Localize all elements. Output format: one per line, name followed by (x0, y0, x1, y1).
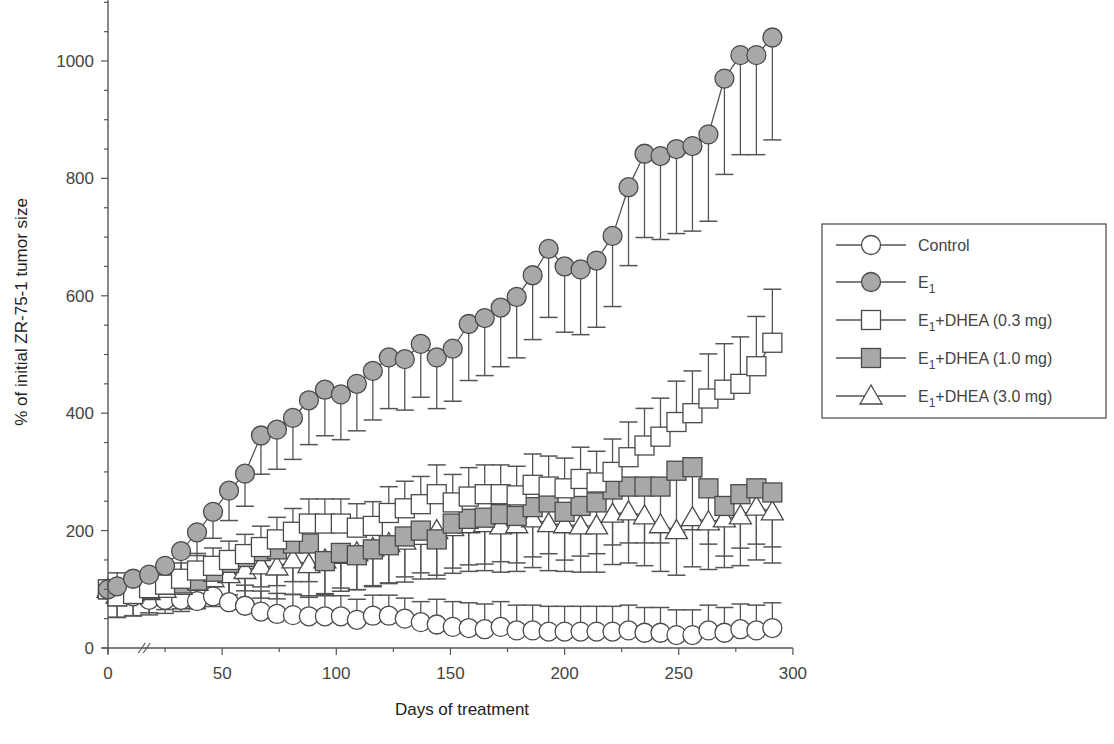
filled-square-marker (763, 483, 782, 502)
series-1-markers (99, 28, 782, 599)
filled-circle-marker (763, 28, 782, 47)
open-circle-marker (862, 236, 881, 255)
x-tick-label: 150 (436, 664, 464, 683)
filled-circle-marker (715, 69, 734, 88)
filled-circle-marker (539, 239, 558, 258)
filled-circle-marker (523, 266, 542, 285)
y-tick-label: 800 (66, 169, 94, 188)
open-triangle-marker (618, 501, 640, 520)
open-square-marker (862, 311, 881, 330)
filled-circle-marker (172, 542, 191, 561)
filled-square-marker (862, 349, 881, 368)
filled-circle-marker (347, 374, 366, 393)
filled-circle-marker (411, 334, 430, 353)
y-tick-label: 0 (85, 639, 94, 658)
x-tick-label: 300 (779, 664, 807, 683)
x-axis-title: Days of treatment (395, 700, 529, 719)
filled-circle-marker (267, 420, 286, 439)
filled-square-marker (683, 458, 702, 477)
open-square-marker (763, 333, 782, 352)
x-tick-label: 0 (103, 664, 112, 683)
y-tick-label: 1000 (56, 52, 94, 71)
filled-circle-marker (683, 137, 702, 156)
filled-circle-marker (204, 502, 223, 521)
open-square-marker (747, 357, 766, 376)
filled-circle-marker (603, 226, 622, 245)
y-tick-label: 400 (66, 404, 94, 423)
filled-square-marker (699, 479, 718, 498)
filled-circle-marker (156, 556, 175, 575)
legend-label: Control (918, 237, 970, 254)
filled-circle-marker (219, 481, 238, 500)
x-tick-label: 250 (665, 664, 693, 683)
series-markers (97, 28, 783, 645)
filled-circle-marker (235, 464, 254, 483)
open-triangle-marker (681, 507, 703, 526)
open-circle-marker (763, 619, 782, 638)
legend: ControlE1E1+DHEA (0.3 mg)E1+DHEA (1.0 mg… (822, 224, 1106, 418)
y-tick-label: 600 (66, 287, 94, 306)
x-tick-label: 50 (213, 664, 232, 683)
filled-circle-marker (747, 46, 766, 65)
filled-circle-marker (699, 125, 718, 144)
filled-circle-marker (188, 523, 207, 542)
filled-circle-marker (283, 408, 302, 427)
y-tick-label: 200 (66, 522, 94, 541)
x-tick-label: 100 (322, 664, 350, 683)
chart-svg: 02004006008001000050100150200250300Days … (0, 0, 1114, 744)
y-axis-title: % of initial ZR-75-1 tumor size (12, 198, 31, 426)
filled-circle-marker (443, 339, 462, 358)
filled-circle-marker (619, 178, 638, 197)
x-tick-label: 200 (550, 664, 578, 683)
filled-circle-marker (363, 361, 382, 380)
filled-circle-marker (507, 287, 526, 306)
filled-circle-marker (395, 350, 414, 369)
filled-circle-marker (862, 273, 881, 292)
open-square-marker (731, 374, 750, 393)
filled-circle-marker (587, 251, 606, 270)
